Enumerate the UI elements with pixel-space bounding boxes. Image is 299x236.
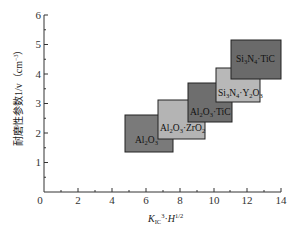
- svg-text:2: 2: [75, 194, 81, 206]
- svg-text:3: 3: [36, 97, 42, 109]
- svg-text:0: 0: [37, 194, 43, 206]
- svg-text:4: 4: [36, 68, 42, 80]
- svg-text:4: 4: [109, 194, 115, 206]
- svg-text:14: 14: [276, 194, 288, 206]
- svg-text:8: 8: [177, 194, 183, 206]
- svg-text:1: 1: [36, 156, 42, 168]
- y-tick-labels: 1 2 3 4 5 6: [36, 9, 42, 168]
- label-si3n4-y2o3: Si3N4·Y2O3: [218, 88, 263, 99]
- svg-text:12: 12: [242, 194, 253, 206]
- chart: Al2O3 Al2O3·ZrO2 Al2O3·TiC Si3N4·Y2O3 Si…: [0, 0, 299, 236]
- x-tick-labels: 0 2 4 6 8 10 12 14: [37, 194, 287, 206]
- y-axis-title: 耐磨性参数1/v（cm−3）: [12, 45, 24, 146]
- label-al2o3-zro2: Al2O3·ZrO2: [160, 123, 205, 134]
- svg-text:5: 5: [36, 38, 42, 50]
- x-axis-title: KIC3·H1/2: [147, 212, 183, 225]
- svg-text:6: 6: [143, 194, 149, 206]
- svg-text:10: 10: [209, 194, 221, 206]
- svg-text:2: 2: [36, 127, 42, 139]
- svg-text:6: 6: [36, 9, 42, 21]
